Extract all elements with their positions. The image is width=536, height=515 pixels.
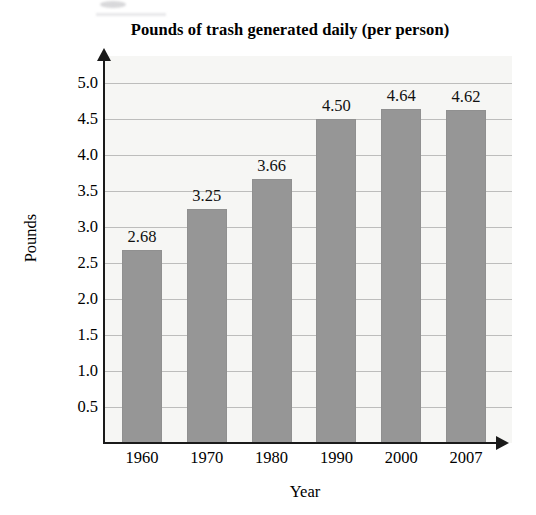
y-axis-arrow-icon (97, 48, 111, 61)
x-tick-label: 1990 (302, 450, 370, 467)
x-tick-label: 1970 (173, 450, 241, 467)
y-tick-label: 3.0 (52, 219, 98, 236)
bar-2007 (446, 110, 486, 443)
x-tick-label: 1960 (108, 450, 176, 467)
bar-chart-figure: Pounds of trash generated daily (per per… (0, 0, 536, 515)
bar-1980 (252, 179, 292, 443)
bar-value-label: 2.68 (109, 229, 175, 246)
bar-1970 (187, 209, 227, 443)
y-tick-label: 1.0 (52, 363, 98, 380)
x-tick-label: 1980 (238, 450, 306, 467)
page-artifact-mark (100, 1, 126, 8)
bar-1990 (316, 119, 356, 443)
y-axis-tick-labels: 0.51.01.52.02.53.03.54.04.55.0 (50, 0, 98, 515)
bar-value-label: 4.62 (433, 89, 499, 106)
plot-area: 2.683.253.664.504.644.62 (105, 56, 512, 443)
page-artifact-line (96, 13, 166, 16)
x-axis-line (103, 442, 498, 444)
x-axis-arrow-icon (496, 436, 509, 450)
chart-title: Pounds of trash generated daily (per per… (60, 20, 520, 40)
bar-1960 (122, 250, 162, 443)
y-tick-label: 1.5 (52, 327, 98, 344)
y-tick-label: 2.5 (52, 255, 98, 272)
y-tick-label: 2.0 (52, 291, 98, 308)
y-tick-label: 5.0 (52, 75, 98, 92)
bar-value-label: 4.64 (368, 88, 434, 105)
x-axis-title: Year (105, 482, 505, 502)
bars-layer: 2.683.253.664.504.644.62 (105, 56, 512, 443)
x-tick-label: 2007 (432, 450, 500, 467)
y-tick-label: 3.5 (52, 183, 98, 200)
y-tick-label: 4.5 (52, 111, 98, 128)
bar-value-label: 4.50 (303, 98, 369, 115)
y-tick-label: 0.5 (52, 399, 98, 416)
bar-value-label: 3.66 (239, 158, 305, 175)
y-axis-line (103, 58, 105, 444)
bar-2000 (381, 109, 421, 443)
y-tick-label: 4.0 (52, 147, 98, 164)
y-axis-title: Pounds (21, 193, 41, 283)
bar-value-label: 3.25 (174, 188, 240, 205)
x-tick-label: 2000 (367, 450, 435, 467)
